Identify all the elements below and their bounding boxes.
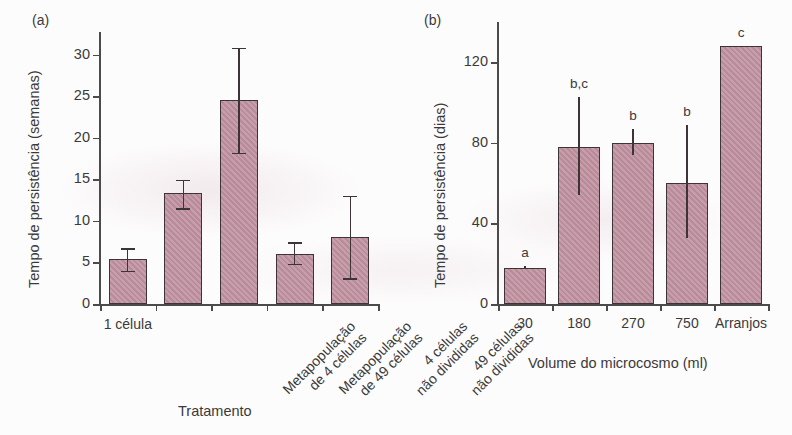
panel-b-error-bar <box>524 266 525 268</box>
panel-a-y-tick-label: 20 <box>48 129 90 145</box>
panel-a-error-cap <box>343 196 357 197</box>
panel-b-y-tick <box>491 62 499 64</box>
panel-b-bar <box>612 143 654 304</box>
panel-b-y-tick <box>491 223 499 225</box>
panel-b-y-tick <box>491 143 499 145</box>
panel-b-x-tick-label: Arranjos <box>691 315 791 331</box>
panel-a-error-cap <box>176 208 190 209</box>
panel-a: (a) Tempo de persistência (semanas) Trat… <box>0 0 410 435</box>
panel-a-error-bar <box>127 248 128 270</box>
panel-a-y-tick <box>93 55 101 57</box>
panel-b-x-tick <box>768 304 770 311</box>
panel-b-plot-area: 04080120a30b,c180b270b750cArranjos <box>410 0 792 435</box>
panel-b-significance-label: b,c <box>554 76 604 91</box>
panel-a-error-cap <box>288 264 302 265</box>
panel-b-y-tick-label: 40 <box>446 214 488 230</box>
panel-b-bar <box>504 268 546 304</box>
panel-b-x-tick <box>552 304 554 311</box>
panel-b-x-tick <box>660 304 662 311</box>
panel-b-bar <box>720 46 762 304</box>
panel-a-y-tick <box>93 96 101 98</box>
panel-a-y-tick-label: 15 <box>48 170 90 186</box>
panel-b-significance-label: c <box>716 25 766 40</box>
panel-a-y-tick <box>93 179 101 181</box>
panel-a-y-tick-label: 0 <box>48 295 90 311</box>
panel-a-x-tick-label: 1 célula <box>78 316 178 332</box>
panel-a-error-bar <box>238 48 239 153</box>
panel-a-y-axis-line <box>99 32 101 305</box>
panel-a-error-cap <box>232 153 246 154</box>
panel-a-y-tick <box>93 138 101 140</box>
panel-a-y-tick-label: 10 <box>48 212 90 228</box>
panel-a-x-axis-line <box>99 304 379 306</box>
panel-a-bar <box>164 193 202 304</box>
panel-b-y-tick-label: 120 <box>446 53 488 69</box>
panel-a-error-bar <box>350 196 351 278</box>
panel-b-error-bar <box>578 97 579 196</box>
panel-a-error-cap <box>232 48 246 49</box>
panel-b-significance-label: a <box>500 245 550 260</box>
panel-b-y-tick-label: 80 <box>446 134 488 150</box>
panel-a-error-cap <box>121 271 135 272</box>
panel-b-error-bar <box>632 129 633 155</box>
panel-a-x-tick <box>267 304 269 311</box>
panel-b-y-axis-line <box>497 22 499 305</box>
panel-a-y-tick-label: 5 <box>48 253 90 269</box>
panel-a-error-cap <box>288 242 302 243</box>
panel-b-significance-label: b <box>608 108 658 123</box>
panel-a-x-tick <box>211 304 213 311</box>
panel-b: (b) Tempo de persistência (dias) Volume … <box>410 0 792 435</box>
panel-a-y-tick-label: 25 <box>48 87 90 103</box>
panel-a-error-cap <box>343 278 357 279</box>
figure-container: (a) Tempo de persistência (semanas) Trat… <box>0 0 792 435</box>
panel-a-error-cap <box>176 180 190 181</box>
panel-a-plot-area: 0510152025301 célulaMetapopulaçãode 4 cé… <box>0 0 410 435</box>
panel-a-y-tick <box>93 262 101 264</box>
panel-b-x-tick <box>606 304 608 311</box>
panel-b-x-axis-line <box>497 304 769 306</box>
panel-a-x-tick <box>378 304 380 311</box>
panel-b-x-tick <box>498 304 500 311</box>
panel-a-y-tick <box>93 221 101 223</box>
panel-a-error-bar <box>294 242 295 264</box>
panel-b-significance-label: b <box>662 104 712 119</box>
panel-a-error-bar <box>183 180 184 208</box>
panel-a-x-tick <box>100 304 102 311</box>
panel-a-error-cap <box>121 248 135 249</box>
panel-a-x-tick <box>156 304 158 311</box>
panel-b-error-bar <box>686 125 687 238</box>
panel-b-y-tick-label: 0 <box>446 295 488 311</box>
panel-a-y-tick-label: 30 <box>48 46 90 62</box>
panel-a-x-tick <box>322 304 324 311</box>
panel-b-x-tick <box>714 304 716 311</box>
